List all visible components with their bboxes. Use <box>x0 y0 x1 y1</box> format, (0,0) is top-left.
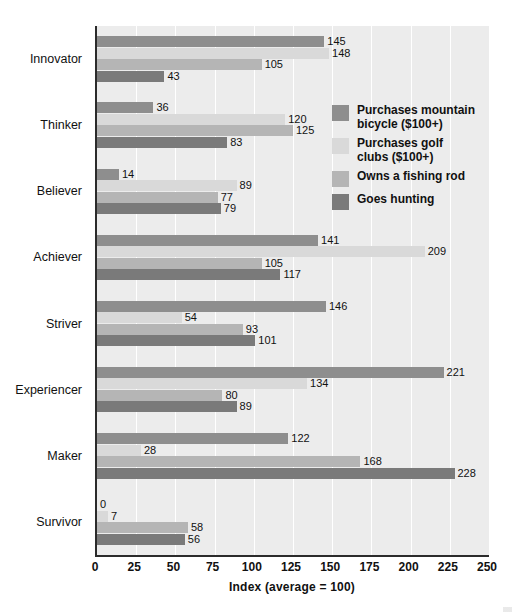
bar-value-label: 0 <box>97 499 106 510</box>
bar-value-label: 117 <box>280 269 301 280</box>
legend-item: Purchases mountain bicycle ($100+) <box>332 104 508 131</box>
bar <box>97 433 288 444</box>
bar-value-label: 120 <box>285 114 306 125</box>
bar <box>97 114 285 125</box>
legend-item: Owns a fishing rod <box>332 170 508 187</box>
bar <box>97 169 119 180</box>
bar-value-label: 105 <box>262 59 283 70</box>
bar-value-label: 105 <box>262 258 283 269</box>
bar <box>97 137 227 148</box>
bar-value-label: 14 <box>119 169 134 180</box>
bar-value-label: 228 <box>455 468 476 479</box>
bar <box>97 203 221 214</box>
bar <box>97 71 164 82</box>
x-tick-label: 200 <box>399 560 419 574</box>
bar-value-label: 80 <box>222 390 237 401</box>
x-tick-label: 100 <box>242 560 262 574</box>
x-tick-label: 250 <box>477 560 497 574</box>
x-tick-label: 150 <box>320 560 340 574</box>
x-tick-label: 125 <box>281 560 301 574</box>
bar <box>97 324 243 335</box>
category-label-experiencer: Experiencer <box>15 383 82 397</box>
bar-value-label: 83 <box>227 137 242 148</box>
x-tick-label: 225 <box>438 560 458 574</box>
bar <box>97 468 455 479</box>
bar-value-label: 79 <box>221 203 236 214</box>
bar-value-label: 145 <box>324 36 345 47</box>
bar <box>97 522 188 533</box>
category-label-thinker: Thinker <box>40 118 82 132</box>
bar <box>97 235 318 246</box>
legend-swatch-fishing-rod <box>332 171 349 187</box>
bar <box>97 180 237 191</box>
bar <box>97 102 153 113</box>
legend-swatch-golf-clubs <box>332 138 349 154</box>
bar <box>97 48 329 59</box>
legend-item: Goes hunting <box>332 193 508 210</box>
bar-value-label: 28 <box>141 445 156 456</box>
category-label-achiever: Achiever <box>33 250 82 264</box>
x-axis-line <box>95 555 489 557</box>
bar-value-label: 77 <box>218 192 233 203</box>
bar-value-label: 168 <box>360 456 381 467</box>
x-axis-tick-labels: 0255075100125150175200225250 <box>0 560 516 578</box>
bar-value-label: 134 <box>307 378 328 389</box>
bar <box>97 511 108 522</box>
bar <box>97 335 255 346</box>
bar-value-label: 209 <box>425 246 446 257</box>
bar <box>97 534 185 545</box>
bar <box>97 401 237 412</box>
bar-chart: 1451481054336120125831489777914120910511… <box>0 0 516 615</box>
x-tick-label: 0 <box>92 560 99 574</box>
bar <box>97 246 425 257</box>
bar-value-label: 43 <box>164 71 179 82</box>
bar-value-label: 56 <box>185 534 200 545</box>
y-axis-category-labels: InnovatorThinkerBelieverAchieverStriverE… <box>0 26 90 555</box>
chart-legend: Purchases mountain bicycle ($100+)Purcha… <box>332 104 508 216</box>
bar-value-label: 7 <box>108 511 117 522</box>
bar <box>97 312 182 323</box>
bar-value-label: 93 <box>243 324 258 335</box>
legend-item-label: Owns a fishing rod <box>357 170 465 184</box>
x-tick-label: 175 <box>359 560 379 574</box>
bar-value-label: 221 <box>444 367 465 378</box>
x-tick-label: 25 <box>128 560 141 574</box>
bar-value-label: 36 <box>153 102 168 113</box>
legend-item-label: Purchases mountain bicycle ($100+) <box>357 104 475 131</box>
bar <box>97 59 262 70</box>
category-label-innovator: Innovator <box>30 52 82 66</box>
bar <box>97 367 444 378</box>
bar-value-label: 89 <box>237 180 252 191</box>
bar-value-label: 101 <box>255 335 276 346</box>
category-label-striver: Striver <box>46 317 82 331</box>
bar <box>97 125 293 136</box>
bar <box>97 456 360 467</box>
legend-item: Purchases golf clubs ($100+) <box>332 137 508 164</box>
bar-value-label: 146 <box>326 301 347 312</box>
bar <box>97 192 218 203</box>
category-label-maker: Maker <box>47 449 82 463</box>
bar-value-label: 89 <box>237 401 252 412</box>
legend-item-label: Goes hunting <box>357 193 434 207</box>
bar-value-label: 125 <box>293 125 314 136</box>
category-label-survivor: Survivor <box>36 515 82 529</box>
legend-swatch-mountain-bicycle <box>332 105 349 121</box>
x-axis-title: Index (average = 100) <box>95 580 489 594</box>
x-tick-label: 50 <box>167 560 180 574</box>
bar-value-label: 122 <box>288 433 309 444</box>
bar <box>97 390 222 401</box>
bar-value-label: 54 <box>182 312 197 323</box>
x-tick-label: 75 <box>206 560 219 574</box>
bar-value-label: 58 <box>188 522 203 533</box>
bar <box>97 36 324 47</box>
legend-swatch-goes-hunting <box>332 194 349 210</box>
bar-value-label: 141 <box>318 235 339 246</box>
corner-artifact <box>503 607 512 612</box>
bar <box>97 445 141 456</box>
category-label-believer: Believer <box>37 184 82 198</box>
bar-value-label: 148 <box>329 48 350 59</box>
bar <box>97 258 262 269</box>
bar <box>97 378 307 389</box>
legend-item-label: Purchases golf clubs ($100+) <box>357 137 443 164</box>
bar <box>97 301 326 312</box>
